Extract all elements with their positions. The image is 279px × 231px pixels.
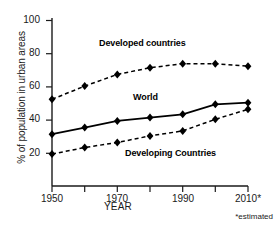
y-tick-label-20: 20 (14, 147, 40, 158)
y-tick-label-60: 60 (14, 80, 40, 91)
series-label-developed: Developed countries (99, 38, 186, 48)
y-tick-label-100: 100 (14, 14, 40, 25)
series-label-world: World (133, 92, 158, 102)
x-axis-ticks (52, 186, 248, 192)
x-tick-label-1950: 1950 (32, 193, 72, 204)
y-tick-label-80: 80 (14, 47, 40, 58)
x-tick-label-1990: 1990 (163, 193, 203, 204)
x-axis-title: YEAR (104, 201, 132, 212)
x-tick-label-2010: 2010* (228, 193, 268, 204)
urbanization-line-chart: % of population in urban areas 100 80 60… (0, 0, 279, 231)
estimated-footnote: *estimated (235, 212, 273, 221)
y-tick-label-40: 40 (14, 113, 40, 124)
series-label-developing: Developing Countries (125, 148, 216, 158)
